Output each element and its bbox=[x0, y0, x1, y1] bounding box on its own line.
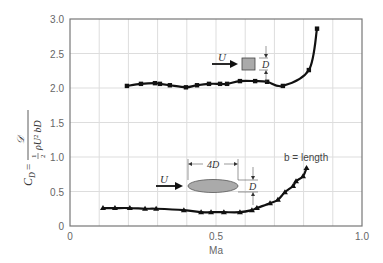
data-point bbox=[218, 82, 222, 86]
data-point bbox=[158, 82, 162, 86]
svg-text:𝒟: 𝒟 bbox=[15, 134, 26, 144]
y-tick-label: 2.5 bbox=[50, 49, 64, 60]
data-point bbox=[125, 84, 129, 88]
svg-text:U: U bbox=[160, 173, 169, 185]
x-tick-label: 0.5 bbox=[209, 231, 223, 242]
span-annotation: b = length bbox=[284, 152, 328, 163]
y-tick-label: 1.5 bbox=[50, 118, 64, 129]
y-tick-label: 3.0 bbox=[50, 14, 64, 25]
data-point bbox=[307, 68, 311, 72]
svg-text:D: D bbox=[28, 172, 37, 179]
svg-text:2: 2 bbox=[39, 154, 47, 158]
svg-text:U: U bbox=[218, 51, 227, 63]
ellipse-shape bbox=[188, 180, 238, 193]
x-axis-label: Ma bbox=[209, 245, 223, 256]
square-shape bbox=[242, 58, 255, 70]
svg-text:=: = bbox=[22, 164, 34, 170]
y-tick-label: 2.0 bbox=[50, 83, 64, 94]
x-tick-label: 1.0 bbox=[355, 231, 369, 242]
svg-text:4D: 4D bbox=[207, 159, 220, 170]
data-point bbox=[304, 165, 310, 170]
y-tick-labels: 00.51.01.52.02.53.0 bbox=[50, 14, 64, 232]
data-point bbox=[315, 26, 319, 30]
y-axis-label: C D = 𝒟 1 2 ρU² bD bbox=[15, 110, 47, 186]
grid-lines bbox=[70, 19, 362, 226]
data-point bbox=[168, 83, 172, 87]
ellipse-cylinder-diagram: U 4D D bbox=[156, 159, 258, 205]
data-point bbox=[207, 82, 211, 86]
data-point bbox=[153, 81, 157, 85]
drag-coefficient-chart: 00.51.01.52.02.53.0 00.51.0 Ma C D = 𝒟 1… bbox=[0, 0, 383, 263]
data-point bbox=[195, 83, 199, 87]
y-tick-label: 0.5 bbox=[50, 187, 64, 198]
x-tick-label: 0 bbox=[67, 231, 73, 242]
square-cylinder-diagram: U D bbox=[212, 46, 270, 82]
y-tick-label: 0 bbox=[58, 221, 64, 232]
data-point bbox=[265, 80, 269, 84]
data-point bbox=[139, 82, 143, 86]
x-tick-labels: 00.51.0 bbox=[67, 231, 369, 242]
svg-text:ρU² bD: ρU² bD bbox=[32, 119, 43, 151]
data-point bbox=[225, 82, 229, 86]
svg-text:D: D bbox=[261, 59, 270, 70]
data-point bbox=[253, 79, 257, 83]
svg-text:1: 1 bbox=[30, 154, 38, 158]
data-point bbox=[281, 84, 285, 88]
data-point bbox=[184, 85, 188, 89]
data-point bbox=[238, 79, 242, 83]
svg-text:D: D bbox=[248, 181, 257, 192]
y-tick-label: 1.0 bbox=[50, 152, 64, 163]
